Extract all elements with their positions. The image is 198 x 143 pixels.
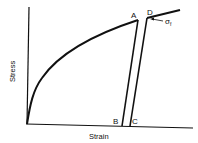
y-axis-label: Stress [8,60,17,82]
y-axis [27,7,29,124]
reloading-line [130,18,147,126]
unloading-line [122,20,138,126]
x-axis-label: Strain [89,132,109,141]
x-axis [26,124,193,128]
point-label-c: C [132,117,138,126]
point-label-d: D [147,8,153,17]
diagram-canvas: A D B C σf Strain Stress [0,0,198,143]
loading-curve [27,20,138,124]
sigma-f-label: σf [165,17,172,27]
stress-strain-diagram: A D B C σf Strain Stress [0,0,198,143]
point-label-a: A [131,11,137,20]
point-label-b: B [113,117,118,126]
